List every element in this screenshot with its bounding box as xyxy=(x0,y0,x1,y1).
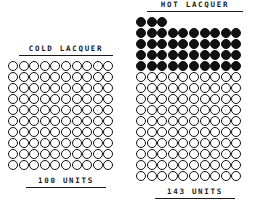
unit-dot-open xyxy=(157,149,167,159)
unit-dot-open xyxy=(210,94,220,104)
unit-dot-open xyxy=(200,160,210,170)
unit-dot-open xyxy=(61,61,71,71)
unit-dot-open xyxy=(200,94,210,104)
unit-dot-open xyxy=(147,138,157,148)
unit-dot-open xyxy=(61,160,71,170)
pictogram-row-open xyxy=(8,61,114,72)
unit-dot-open xyxy=(8,61,18,71)
pictogram-row-open xyxy=(136,127,242,138)
unit-dot-open xyxy=(231,138,241,148)
unit-dot-filled xyxy=(147,39,157,49)
unit-dot-open xyxy=(19,149,29,159)
unit-dot-open xyxy=(72,94,82,104)
unit-dot-filled xyxy=(178,39,188,49)
cold-lacquer-pictogram-grid xyxy=(8,61,124,171)
pictogram-row-filled xyxy=(136,39,242,50)
unit-dot-open xyxy=(40,83,50,93)
unit-dot-open xyxy=(50,160,60,170)
unit-dot-open xyxy=(168,127,178,137)
unit-dot-open xyxy=(210,127,220,137)
unit-dot-filled xyxy=(231,28,241,38)
unit-dot-open xyxy=(19,138,29,148)
unit-dot-open xyxy=(210,149,220,159)
unit-dot-open xyxy=(189,138,199,148)
unit-dot-filled xyxy=(157,61,167,71)
unit-dot-open xyxy=(157,171,167,181)
unit-dot-open xyxy=(72,127,82,137)
unit-dot-filled xyxy=(189,50,199,60)
unit-dot-open xyxy=(40,116,50,126)
unit-dot-open xyxy=(19,94,29,104)
unit-dot-open xyxy=(8,72,18,82)
unit-dot-filled xyxy=(189,28,199,38)
unit-dot-open xyxy=(50,149,60,159)
unit-dot-open xyxy=(221,83,231,93)
unit-dot-open xyxy=(200,105,210,115)
unit-dot-open xyxy=(221,138,231,148)
unit-dot-open xyxy=(19,127,29,137)
unit-dot-open xyxy=(72,160,82,170)
unit-dot-open xyxy=(8,127,18,137)
unit-dot-open xyxy=(72,61,82,71)
unit-dot-open xyxy=(50,105,60,115)
pictogram-row-open xyxy=(8,149,114,160)
unit-dot-filled xyxy=(178,61,188,71)
unit-dot-open xyxy=(189,94,199,104)
unit-dot-filled xyxy=(200,39,210,49)
unit-dot-open xyxy=(40,61,50,71)
unit-dot-open xyxy=(200,171,210,181)
unit-dot-open xyxy=(136,94,146,104)
unit-dot-open xyxy=(200,127,210,137)
unit-dot-open xyxy=(157,127,167,137)
unit-dot-open xyxy=(29,116,39,126)
unit-dot-open xyxy=(61,149,71,159)
unit-dot-filled xyxy=(168,28,178,38)
unit-dot-filled xyxy=(231,50,241,60)
unit-dot-open xyxy=(103,94,113,104)
unit-dot-open xyxy=(103,127,113,137)
unit-dot-filled xyxy=(157,28,167,38)
unit-dot-filled xyxy=(189,61,199,71)
pictogram-row-open xyxy=(8,160,114,171)
cold-lacquer-panel: COLD LACQUER 100 UNITS xyxy=(8,44,124,188)
unit-dot-filled xyxy=(147,28,157,38)
unit-dot-open xyxy=(50,138,60,148)
unit-dot-open xyxy=(103,105,113,115)
unit-dot-filled xyxy=(136,50,146,60)
unit-dot-open xyxy=(8,149,18,159)
unit-dot-open xyxy=(136,171,146,181)
cold-lacquer-footer-label: 100 UNITS xyxy=(8,176,124,185)
unit-dot-open xyxy=(157,94,167,104)
unit-dot-open xyxy=(210,138,220,148)
hot-lacquer-title-underline xyxy=(147,11,243,12)
unit-dot-open xyxy=(82,138,92,148)
unit-dot-filled xyxy=(221,28,231,38)
unit-dot-open xyxy=(147,171,157,181)
pictogram-row-open xyxy=(136,94,242,105)
unit-dot-open xyxy=(231,105,241,115)
unit-dot-open xyxy=(210,116,220,126)
unit-dot-open xyxy=(8,138,18,148)
unit-dot-open xyxy=(136,149,146,159)
unit-dot-open xyxy=(210,83,220,93)
unit-dot-open xyxy=(8,94,18,104)
unit-dot-open xyxy=(8,116,18,126)
pictogram-row-filled xyxy=(136,61,242,72)
unit-dot-open xyxy=(178,138,188,148)
unit-dot-open xyxy=(147,160,157,170)
unit-dot-open xyxy=(168,94,178,104)
unit-dot-open xyxy=(103,61,113,71)
unit-dot-open xyxy=(103,116,113,126)
unit-dot-open xyxy=(136,72,146,82)
unit-dot-filled xyxy=(221,50,231,60)
unit-dot-filled xyxy=(200,28,210,38)
unit-dot-filled xyxy=(210,28,220,38)
unit-dot-open xyxy=(103,160,113,170)
pictogram-row-open xyxy=(8,94,114,105)
unit-dot-filled xyxy=(157,17,167,27)
unit-dot-filled xyxy=(147,17,157,27)
unit-dot-filled xyxy=(221,39,231,49)
unit-dot-open xyxy=(8,83,18,93)
unit-dot-open xyxy=(50,94,60,104)
cold-lacquer-title-underline xyxy=(19,55,113,56)
